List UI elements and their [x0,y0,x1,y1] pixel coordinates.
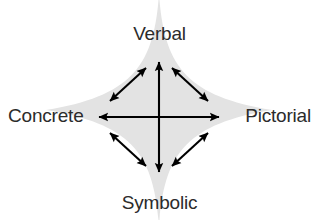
node-label-concrete: Concrete [8,106,84,125]
node-label-verbal: Verbal [0,24,319,43]
diagram-container: Verbal Concrete Pictorial Symbolic [0,0,319,220]
node-label-symbolic: Symbolic [0,193,319,212]
node-label-pictorial: Pictorial [245,106,311,125]
